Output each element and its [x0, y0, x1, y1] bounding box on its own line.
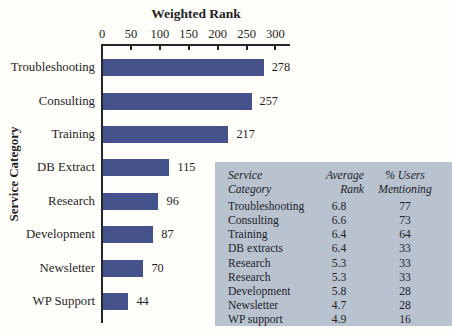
weighted-rank-figure: Weighted Rank 050100150200250300 Trouble…	[0, 0, 452, 334]
x-tick-mark	[188, 46, 190, 50]
bar	[103, 93, 252, 110]
bar-row: Training217	[0, 118, 310, 151]
summary-category-cell: WP support	[228, 313, 314, 327]
summary-category-cell: Newsletter	[228, 299, 314, 313]
x-tick-mark	[217, 46, 219, 50]
summary-table-header: ServiceCategoryAverageRank% UsersMention…	[228, 169, 446, 196]
summary-average-rank-cell: 6.4	[314, 228, 364, 242]
bar-value-label: 278	[272, 60, 290, 75]
x-tick-label: 200	[208, 27, 227, 42]
summary-category-cell: Development	[228, 285, 314, 299]
bar-value-label: 87	[161, 227, 173, 242]
bar-value-label: 96	[166, 194, 178, 209]
bar-row: Consulting257	[0, 84, 310, 117]
summary-average-rank-cell: 5.3	[314, 257, 364, 271]
summary-pct-users-cell: 77	[364, 200, 446, 214]
summary-category-cell: Consulting	[228, 214, 314, 228]
bar	[103, 226, 153, 243]
summary-table-header-cell: % UsersMentioning	[364, 169, 446, 196]
summary-table-row: Development5.828	[228, 285, 446, 299]
header-line: Average	[314, 169, 364, 183]
summary-average-rank-cell: 6.4	[314, 242, 364, 256]
x-tick-mark	[246, 46, 248, 50]
category-label: WP Support	[0, 294, 103, 309]
header-line: Rank	[314, 183, 364, 197]
header-line: Category	[228, 183, 314, 197]
bar	[103, 193, 158, 210]
x-tick-mark	[159, 46, 161, 50]
x-tick-mark	[274, 46, 276, 50]
summary-pct-users-cell: 33	[364, 271, 446, 285]
category-label: Newsletter	[0, 261, 103, 276]
summary-table-row: DB extracts6.433	[228, 242, 446, 256]
bar-value-label: 44	[136, 294, 148, 309]
x-tick-label: 300	[266, 27, 285, 42]
header-line: % Users	[364, 169, 446, 183]
summary-pct-users-cell: 28	[364, 285, 446, 299]
summary-average-rank-cell: 5.3	[314, 271, 364, 285]
bar	[103, 293, 128, 310]
summary-table-row: Troubleshooting6.877	[228, 200, 446, 214]
summary-pct-users-cell: 16	[364, 313, 446, 327]
header-line: Mentioning	[364, 183, 446, 197]
summary-pct-users-cell: 28	[364, 299, 446, 313]
summary-table-row: Research5.333	[228, 257, 446, 271]
summary-table-row: Training6.464	[228, 228, 446, 242]
chart-title: Weighted Rank	[102, 6, 290, 22]
bar-value-label: 115	[177, 160, 195, 175]
x-axis-tick-labels: 050100150200250300	[0, 27, 452, 42]
category-label: Development	[0, 227, 103, 242]
header-line: Service	[228, 169, 314, 183]
summary-average-rank-cell: 4.7	[314, 299, 364, 313]
summary-average-rank-cell: 6.8	[314, 200, 364, 214]
summary-pct-users-cell: 73	[364, 214, 446, 228]
bar	[103, 159, 169, 176]
summary-table-row: Consulting6.673	[228, 214, 446, 228]
summary-category-cell: Troubleshooting	[228, 200, 314, 214]
summary-category-cell: Research	[228, 271, 314, 285]
bar	[103, 126, 228, 143]
bar-value-label: 257	[260, 94, 278, 109]
summary-pct-users-cell: 33	[364, 242, 446, 256]
summary-average-rank-cell: 5.8	[314, 285, 364, 299]
summary-average-rank-cell: 4.9	[314, 313, 364, 327]
summary-table-header-cell: AverageRank	[314, 169, 364, 196]
x-tick-label: 250	[237, 27, 256, 42]
bar-value-label: 217	[236, 127, 254, 142]
bar-row: Troubleshooting278	[0, 51, 310, 84]
category-label: Troubleshooting	[0, 60, 103, 75]
summary-table-header-cell: ServiceCategory	[228, 169, 314, 196]
x-tick-label: 0	[99, 27, 105, 42]
x-tick-mark	[130, 46, 132, 50]
bar-value-label: 70	[151, 261, 163, 276]
summary-category-cell: Research	[228, 257, 314, 271]
summary-table-row: WP support4.916	[228, 313, 446, 327]
summary-table-row: Research5.333	[228, 271, 446, 285]
summary-category-cell: DB extracts	[228, 242, 314, 256]
x-tick-label: 50	[125, 27, 138, 42]
summary-table: ServiceCategoryAverageRank% UsersMention…	[215, 162, 452, 326]
x-tick-label: 150	[179, 27, 198, 42]
summary-pct-users-cell: 33	[364, 257, 446, 271]
summary-table-body: Troubleshooting6.877Consulting6.673Train…	[228, 200, 446, 327]
bar	[103, 59, 264, 76]
summary-table-row: Newsletter4.728	[228, 299, 446, 313]
category-label: Consulting	[0, 94, 103, 109]
bar	[103, 260, 143, 277]
x-tick-label: 100	[150, 27, 169, 42]
y-axis-title: Service Category	[6, 127, 22, 222]
summary-category-cell: Training	[228, 228, 314, 242]
summary-average-rank-cell: 6.6	[314, 214, 364, 228]
x-tick-mark	[101, 46, 103, 50]
summary-pct-users-cell: 64	[364, 228, 446, 242]
